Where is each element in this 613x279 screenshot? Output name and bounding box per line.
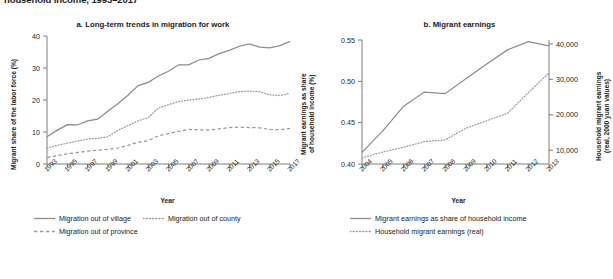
panel-b-x-tick-label: 2005	[379, 157, 395, 173]
panel-a-x-tick-label: 2011	[225, 157, 240, 172]
panel-b-legend-item-share: Migrant earnings as share of household i…	[350, 215, 526, 222]
panel-b-legend: Migrant earnings as share of household i…	[350, 212, 526, 238]
panel-a-x-tick-label: 1993	[43, 157, 59, 173]
panel-b-y-tick-label-right: 30,000	[556, 75, 578, 84]
panel-b-y-ticks-left	[358, 40, 362, 164]
figure-page: household income, 1993–2017 a. Long-term…	[0, 0, 613, 279]
panel-a-x-tick-label: 2017	[286, 157, 302, 173]
panel-b-x-tick-label: 2004	[358, 157, 374, 173]
panel-b-legend-label: Migrant earnings as share of household i…	[375, 215, 526, 222]
panel-a-legend-label: Migration out of county	[168, 215, 241, 222]
panel-a-x-tick-label: 1999	[104, 157, 120, 173]
panel-b-x-tick-label: 2008	[441, 157, 457, 173]
legend-line-dotted-icon	[143, 215, 164, 222]
panel-a-legend-item-county: Migration out of county	[143, 215, 241, 222]
panel-a-series-county	[47, 91, 290, 148]
panel-a-x-tick-label: 2005	[164, 157, 180, 173]
panel-a-legend-label: Migration out of province	[59, 228, 138, 235]
panel-b-y-tick-label-left: 0.55	[341, 36, 355, 45]
panel-b-legend-label: Household migrant earnings (real)	[375, 228, 484, 235]
panel-a-legend-item-village: Migration out of village	[34, 215, 131, 222]
panel-a-y-tick-label: 40	[32, 32, 40, 41]
panel-a-legend-item-province: Migration out of province	[34, 228, 138, 235]
panel-a-plot: 40 30 20 10 0	[0, 14, 306, 214]
panel-b-y-tick-labels-left: 0.55 0.50 0.45 0.40	[341, 36, 355, 169]
panel-b-y-tick-label-left: 0.50	[341, 77, 355, 86]
panel-a-y-tick-label: 20	[32, 96, 40, 105]
figure-top-title: household income, 1993–2017	[4, 0, 138, 5]
panel-b-y-tick-labels-right: 40,000 30,000 20,000 10,000	[556, 40, 578, 155]
panel-a-y-ticks	[43, 36, 47, 164]
panel-b-x-tick-label: 2011	[503, 157, 518, 172]
panel-b-x-tick-label: 2007	[420, 157, 436, 173]
panel-a-x-tick-label: 2013	[245, 157, 261, 173]
panel-b-x-tick-label: 2006	[399, 157, 415, 173]
panel-b-y-tick-label-left: 0.45	[341, 118, 355, 127]
panel-a-x-tick-label: 2015	[266, 157, 282, 173]
panel-b-y-tick-label-left: 0.40	[341, 160, 355, 169]
legend-line-solid-icon	[34, 215, 55, 222]
panel-a-x-tick-label: 1997	[83, 157, 99, 173]
panel-a-x-tick-label: 2001	[124, 157, 140, 173]
panel-b-x-tick-label: 2010	[482, 157, 498, 173]
panel-a-x-tick-label: 2007	[185, 157, 201, 173]
panel-a-x-tick-label: 1995	[63, 157, 79, 173]
panel-b-y-tick-label-right: 40,000	[556, 40, 578, 49]
panel-b-x-tick-label: 2012	[524, 157, 540, 173]
panel-a-legend-label: Migration out of village	[59, 215, 131, 222]
legend-line-solid-icon	[350, 215, 371, 222]
panel-b-x-tick-label: 2013	[545, 157, 561, 173]
panel-b-plot: 0.55 0.50 0.45 0.40 40,000 30,000 20,000…	[306, 14, 613, 214]
panel-a-series-village	[47, 41, 290, 136]
panel-a-legend: Migration out of village Migration out o…	[34, 212, 241, 238]
panel-b-series-share	[362, 42, 549, 153]
panel-a-y-tick-labels: 40 30 20 10 0	[32, 32, 40, 169]
panel-b-y-tick-label-right: 20,000	[556, 110, 578, 119]
panel-a-x-tick-label: 2009	[205, 157, 221, 173]
panel-b-y-ticks-right	[549, 44, 553, 150]
panel-a-series-province	[47, 127, 290, 157]
panel-a-x-tick-labels: 1993 1995 1997 1999 2001 2003 2005 2007 …	[43, 157, 302, 173]
panel-b-legend-item-earnings: Household migrant earnings (real)	[350, 228, 484, 235]
legend-line-dashed-icon	[34, 228, 55, 235]
panel-b-x-tick-label: 2009	[462, 157, 478, 173]
panel-b-x-tick-labels: 2004 2005 2006 2007 2008 2009 2010 2011 …	[358, 157, 561, 173]
panel-a-y-tick-label: 30	[32, 64, 40, 73]
panel-a-y-tick-label: 10	[32, 128, 40, 137]
legend-line-dotted-icon	[350, 228, 371, 235]
panel-b-y-tick-label-right: 10,000	[556, 146, 578, 155]
panel-a-x-tick-label: 2003	[144, 157, 160, 173]
panel-a-y-tick-label: 0	[36, 160, 40, 169]
